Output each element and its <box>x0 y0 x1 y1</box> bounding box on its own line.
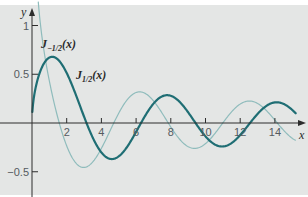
x-tick-label: 14 <box>269 126 281 138</box>
x-tick-label: 2 <box>64 126 70 138</box>
bessel-chart: y x 2468101214 10.5−0.5 J−1/2(x) J1/2(x) <box>0 0 308 197</box>
x-tick-label: 6 <box>133 126 139 138</box>
y-tick-label: 0.5 <box>14 68 29 80</box>
y-axis-label: y <box>20 5 27 19</box>
x-axis-label: x <box>298 128 305 142</box>
y-tick-label: −0.5 <box>7 166 29 178</box>
x-tick-label: 12 <box>234 126 246 138</box>
x-tick-label: 8 <box>168 126 174 138</box>
plot-background <box>0 5 308 195</box>
y-tick-label: 1 <box>23 20 29 32</box>
x-tick-label: 4 <box>98 126 104 138</box>
x-tick-label: 10 <box>199 126 211 138</box>
